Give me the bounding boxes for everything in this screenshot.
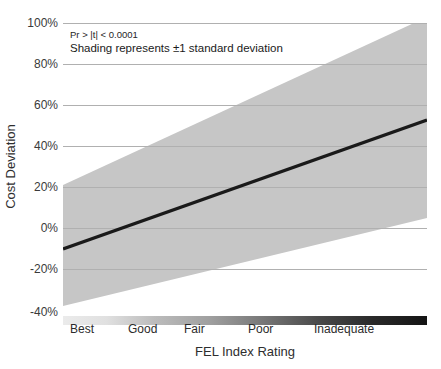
chart-annotation: Pr > |t| < 0.0001 Shading represents ±1 … [70,28,350,56]
x-tick-label: Good [128,322,157,336]
shading-annotation: Shading represents ±1 standard deviation [70,41,350,56]
x-tick-label: Inadequate [314,322,374,336]
x-tick-label: Best [70,322,94,336]
x-tick-label: Poor [248,322,273,336]
fel-index-gradient-bar [63,311,427,320]
y-tick-label: 0% [14,221,58,235]
y-tick-label: 100% [14,16,58,30]
plot-graphics [63,23,427,310]
y-tick-label: -40% [14,305,58,319]
y-axis-tick-labels: 100% 80% 60% 40% 20% 0% -20% -40% [12,0,58,369]
cost-deviation-chart: Cost Deviation 100% 80% 60% 40% 20% 0% -… [0,0,441,369]
x-axis-tick-labels: Best Good Fair Poor Inadequate [0,322,441,338]
y-tick-label: -20% [14,262,58,276]
y-tick-label: 60% [14,98,58,112]
y-tick-label: 20% [14,180,58,194]
plot-area [63,23,427,310]
p-value-annotation: Pr > |t| < 0.0001 [70,28,350,41]
standard-deviation-band [63,23,427,306]
y-tick-label: 40% [14,139,58,153]
x-tick-label: Fair [184,322,205,336]
y-tick-label: 80% [14,57,58,71]
x-axis-title: FEL Index Rating [63,344,427,359]
